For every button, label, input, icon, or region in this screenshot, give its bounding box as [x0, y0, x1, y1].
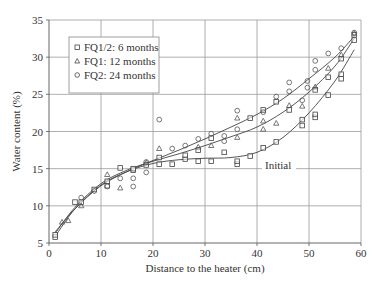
legend-label: FQ1/2: 6 months	[84, 41, 159, 53]
y-tick-label: 15	[32, 163, 44, 175]
data-point-square	[53, 233, 58, 238]
legend-item-12-months: FQ1: 12 months	[75, 55, 156, 67]
annotations: Initial	[262, 159, 296, 171]
data-point-circle	[209, 131, 214, 136]
data-point-circle	[144, 170, 149, 175]
y-tick-label: 10	[32, 200, 44, 212]
data-point-square	[300, 117, 305, 122]
data-point-circle	[300, 98, 305, 103]
data-point-square	[235, 159, 240, 164]
data-point-square	[131, 166, 136, 171]
x-tick-label: 40	[252, 247, 264, 259]
y-tick-label: 30	[32, 51, 44, 63]
legend: FQ1/2: 6 months FQ1: 12 months FQ2: 24 m…	[69, 37, 159, 93]
data-point-circle	[118, 176, 123, 181]
data-point-square	[209, 136, 214, 141]
data-point-square	[339, 72, 344, 77]
data-point-triangle	[300, 103, 305, 108]
data-point-triangle	[118, 185, 123, 190]
legend-item-24-months: FQ2: 24 months	[75, 69, 156, 81]
data-point-square	[274, 99, 279, 104]
y-tick-label: 20	[32, 126, 44, 138]
data-point-square	[339, 76, 344, 81]
data-point-triangle	[209, 143, 214, 148]
axes: 01020304050605101520253035Distance to th…	[10, 14, 367, 275]
x-tick-label: 30	[200, 247, 212, 259]
data-point-square	[183, 153, 188, 158]
data-point-square	[261, 146, 266, 151]
data-point-circle	[339, 46, 344, 51]
data-point-square	[105, 179, 110, 184]
data-point-square	[313, 112, 318, 117]
data-point-triangle	[326, 66, 331, 71]
data-point-circle	[157, 117, 162, 122]
data-point-square	[73, 200, 78, 205]
data-point-circle	[222, 134, 227, 139]
water-content-chart: 01020304050605101520253035Distance to th…	[0, 0, 381, 288]
data-point-circle	[79, 195, 84, 200]
x-tick-label: 50	[304, 247, 316, 259]
data-point-square	[274, 140, 279, 145]
data-point-triangle	[261, 126, 266, 131]
data-point-circle	[274, 94, 279, 99]
y-tick-label: 25	[32, 88, 44, 100]
data-point-triangle	[274, 121, 279, 126]
data-point-square	[326, 93, 331, 98]
y-tick-label: 35	[32, 14, 44, 26]
data-point-triangle	[261, 118, 266, 123]
data-point-circle	[131, 184, 136, 189]
x-tick-label: 0	[46, 247, 52, 259]
data-point-square	[196, 159, 201, 164]
legend-item-6-months: FQ1/2: 6 months	[75, 41, 159, 53]
data-point-square	[157, 155, 162, 160]
x-axis-title: Distance to the heater (cm)	[145, 262, 264, 275]
data-point-square	[352, 38, 357, 43]
data-point-square	[196, 148, 201, 153]
data-point-triangle	[105, 172, 110, 177]
data-point-circle	[287, 89, 292, 94]
data-point-square	[300, 123, 305, 128]
data-point-square	[313, 88, 318, 93]
data-point-circle	[326, 51, 331, 56]
data-point-square	[222, 150, 227, 155]
legend-label: FQ1: 12 months	[84, 55, 156, 67]
data-point-circle	[235, 127, 240, 132]
x-tick-label: 20	[148, 247, 160, 259]
data-point-circle	[170, 146, 175, 151]
data-point-square	[248, 116, 253, 121]
y-axis-title: Water content (%)	[10, 91, 23, 172]
data-point-square	[248, 154, 253, 159]
data-point-triangle	[157, 146, 162, 151]
data-point-circle	[287, 80, 292, 85]
data-point-circle	[131, 176, 136, 181]
data-point-square	[209, 159, 214, 164]
y-tick-label: 5	[38, 237, 44, 249]
data-point-square	[170, 162, 175, 167]
data-point-square	[287, 108, 292, 113]
data-point-square	[157, 162, 162, 167]
data-point-square	[326, 75, 331, 80]
data-point-triangle	[287, 103, 292, 108]
data-point-circle	[196, 137, 201, 142]
data-point-circle	[313, 58, 318, 63]
legend-label: FQ2: 24 months	[84, 69, 156, 81]
data-point-triangle	[235, 115, 240, 120]
data-point-square	[118, 166, 123, 171]
x-tick-label: 10	[96, 247, 108, 259]
x-tick-label: 60	[356, 247, 368, 259]
initial-label: Initial	[265, 159, 291, 171]
data-point-circle	[313, 67, 318, 72]
data-point-circle	[235, 108, 240, 113]
